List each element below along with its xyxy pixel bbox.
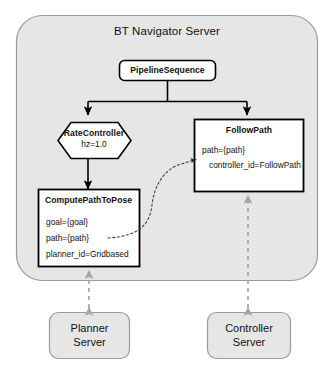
node-follow-path-label: FollowPath: [226, 126, 272, 136]
node-compute-path-port-path: path={path}: [46, 234, 89, 243]
node-controller-server-label: Controller Server: [225, 322, 273, 349]
node-rate-controller-label: RateController: [64, 129, 124, 139]
diagram-shapes-layer: [0, 0, 335, 372]
node-pipeline-sequence-label: PipelineSequence: [130, 66, 204, 76]
node-controller-server-label-line1: Controller: [225, 322, 273, 336]
node-planner-server-label: Planner Server: [71, 322, 109, 349]
node-planner-server-label-line1: Planner: [71, 322, 109, 336]
node-rate-controller-hz: hz=1.0: [81, 140, 106, 149]
bt-navigator-diagram: BT Navigator Server PipelineSequence Rat…: [0, 0, 335, 372]
node-compute-path-port-planner-id: planner_id=Gridbased: [46, 250, 129, 259]
node-controller-server-label-line2: Server: [225, 336, 273, 350]
node-compute-path-port-goal: goal={goal}: [46, 218, 88, 227]
node-follow-path-port-path: path={path}: [202, 146, 245, 155]
node-follow-path-port-controller-id: controller_id=FollowPath: [209, 161, 301, 170]
node-planner-server-label-line2: Server: [71, 336, 109, 350]
node-compute-path-to-pose-label: ComputePathToPose: [45, 196, 132, 206]
diagram-title: BT Navigator Server: [114, 25, 220, 38]
